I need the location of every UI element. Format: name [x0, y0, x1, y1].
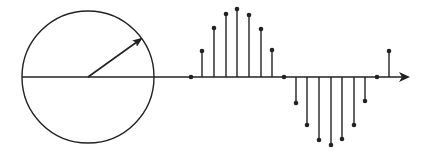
- sample-stem: [317, 77, 322, 142]
- sample-dot-icon: [352, 123, 357, 128]
- sample-dot-icon: [224, 12, 229, 17]
- sample-stem: [235, 7, 240, 77]
- sample-dot-icon: [329, 143, 334, 148]
- sample-stem: [247, 13, 252, 77]
- phasor-arrow: [88, 39, 141, 77]
- sample-stem: [200, 49, 205, 77]
- sample-stem: [387, 49, 392, 77]
- sample-dot-icon: [282, 75, 287, 80]
- sample-dot-icon: [212, 26, 217, 31]
- sample-dot-icon: [363, 99, 368, 104]
- sample-stem: [363, 77, 368, 103]
- sample-stem: [189, 75, 194, 80]
- sample-dot-icon: [270, 48, 275, 53]
- sample-dot-icon: [189, 75, 194, 80]
- sample-stem: [270, 48, 275, 77]
- sample-stem: [224, 12, 229, 77]
- sample-dot-icon: [247, 13, 252, 18]
- sample-stem: [212, 26, 217, 77]
- sample-stem: [340, 77, 345, 141]
- sample-dot-icon: [200, 49, 205, 54]
- sample-stem: [294, 77, 299, 105]
- sample-stem: [329, 77, 334, 147]
- phasor-sampling-diagram: [0, 0, 428, 154]
- sample-stem: [259, 27, 264, 77]
- sample-dot-icon: [375, 75, 380, 80]
- sample-dot-icon: [340, 137, 345, 142]
- sample-dot-icon: [305, 123, 310, 128]
- sample-stem: [282, 75, 287, 80]
- sample-dot-icon: [259, 27, 264, 32]
- sample-dot-icon: [235, 7, 240, 12]
- sample-dot-icon: [294, 101, 299, 106]
- sample-stem: [305, 77, 310, 127]
- sample-dot-icon: [317, 138, 322, 143]
- sample-stem: [375, 75, 380, 80]
- sample-stem: [352, 77, 357, 127]
- sample-dot-icon: [387, 49, 392, 54]
